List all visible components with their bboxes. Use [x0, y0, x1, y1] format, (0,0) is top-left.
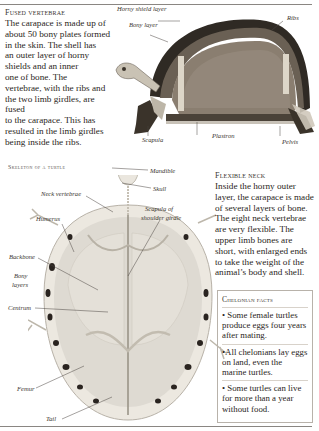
label-mandible: Mandible: [150, 167, 175, 174]
label-horny-shield-layer: Horny shield layer: [117, 5, 166, 12]
label-bony-layers-2: layers: [12, 281, 28, 288]
text-line: being inside the ribs.: [5, 137, 115, 148]
text-line: layer, the carapace is made: [215, 192, 315, 203]
text-line: of several layers of bone.: [215, 203, 315, 214]
label-femur: Femur: [17, 385, 35, 392]
text-line: one of bone. The: [5, 72, 115, 83]
flexible-neck-body: Inside the horny outer layer, the carapa…: [215, 181, 315, 278]
label-backbone: Backbone: [9, 253, 35, 260]
label-humerus: Humerus: [36, 215, 60, 222]
flexible-neck-section: Flexible neck Inside the horny outer lay…: [215, 171, 315, 278]
fused-vertebrae-section: Fused vertebrae The carapace is made up …: [5, 8, 115, 148]
text-line: animal’s body and shell.: [215, 267, 315, 278]
text-line: resulted in the limb girdles: [5, 126, 115, 137]
fused-vertebrae-heading: Fused vertebrae: [5, 8, 115, 17]
label-plastron: Plastron: [212, 132, 234, 139]
text-line: short, with enlarged ends: [215, 246, 315, 257]
label-skull: Skull: [153, 185, 166, 192]
fact-item: • Some female turtles produce eggs four …: [222, 307, 308, 341]
label-neck-vertebrae: Neck vertebrae: [41, 190, 81, 197]
label-centrum: Centrum: [8, 304, 31, 311]
text-line: upper limb bones are: [215, 235, 315, 246]
text-line: to take the weight of the: [215, 257, 315, 268]
fact-item: •All chelonians lay eggs on land, even t…: [222, 344, 308, 378]
label-scapula: Scapula: [142, 136, 163, 143]
text-line: The eight neck vertebrae: [215, 213, 315, 224]
text-line: an outer layer of horny: [5, 50, 115, 61]
label-bony-layers-1: Bony: [14, 272, 28, 279]
label-bony-layer: Bony layer: [129, 21, 158, 28]
label-scapula-of-shoulder-girdle-2: shoulder girdle: [141, 214, 181, 221]
text-line: are very flexible. The: [215, 224, 315, 235]
fact-item: • Some turtles can live for more than a …: [222, 380, 308, 414]
chelonian-facts-box: Chelonian facts • Some female turtles pr…: [217, 290, 313, 423]
text-line: about 50 bony plates formed: [5, 29, 115, 40]
text-line: shields and an inner: [5, 61, 115, 72]
turtle-skeleton-illustration: [28, 175, 228, 425]
label-pelvis: Pelvis: [282, 138, 298, 145]
bottom-rule: [0, 426, 312, 427]
text-line: to the carapace. This has: [5, 115, 115, 126]
label-tail: Tail: [46, 415, 56, 422]
text-line: vertebrae, with the ribs and: [5, 83, 115, 94]
label-scapula-of-shoulder-girdle-1: Scapula of: [145, 205, 173, 212]
text-line: the two limb girdles, are fused: [5, 94, 115, 116]
flexible-neck-heading: Flexible neck: [215, 171, 315, 180]
text-line: The carapace is made up of: [5, 18, 115, 29]
skeleton-title: Skeleton of a turtle: [8, 164, 65, 170]
chelonian-facts-heading: Chelonian facts: [222, 295, 308, 304]
label-ribs: Ribs: [287, 14, 299, 21]
text-line: in the skin. The shell has: [5, 40, 115, 51]
text-line: Inside the horny outer: [215, 181, 315, 192]
fused-vertebrae-body: The carapace is made up of about 50 bony…: [5, 18, 115, 148]
